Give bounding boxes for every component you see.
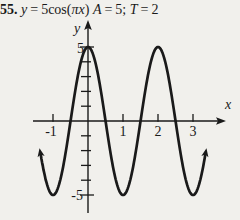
x-tick-label-neg1: -1	[45, 124, 57, 139]
graph-svg: y x 5 -5 -1 1 2 3	[0, 0, 240, 220]
x-axis-label: x	[224, 97, 232, 112]
x-tick-label-1: 1	[120, 124, 127, 139]
textbook-figure-page: { "page": { "background": "#f1f0ec", "in…	[0, 0, 240, 220]
x-tick-label-2: 2	[155, 124, 162, 139]
y-tick-label-neg5: -5	[71, 188, 83, 203]
x-tick-label-3: 3	[190, 124, 197, 139]
y-tick-label-5: 5	[77, 41, 84, 56]
y-axis-label: y	[72, 21, 81, 36]
